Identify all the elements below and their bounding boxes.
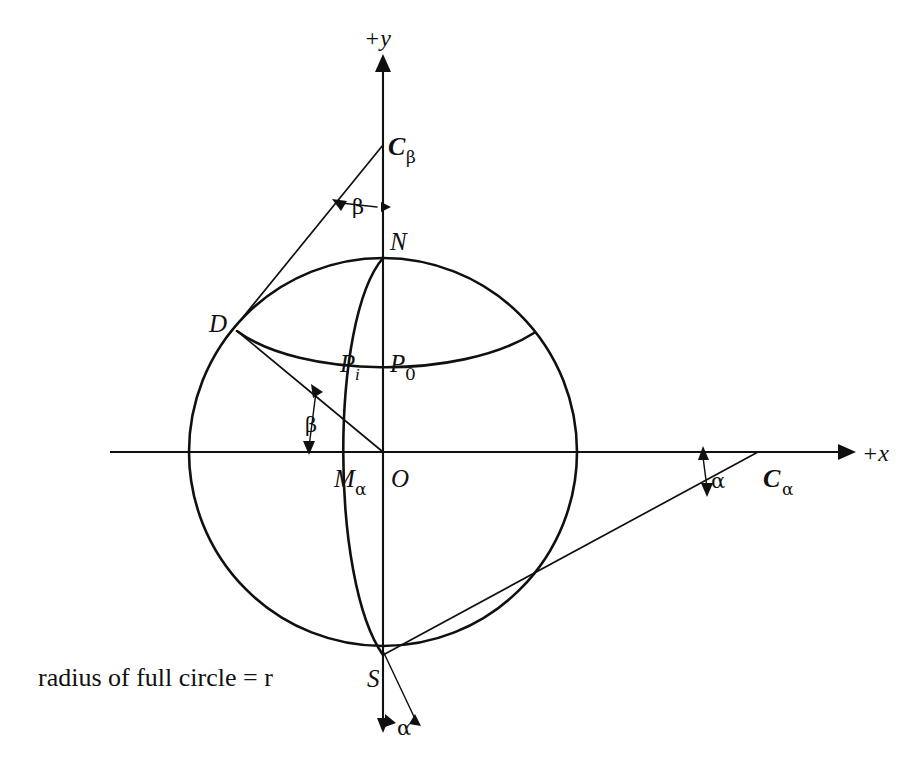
- label-point-p-zero-sub: 0: [405, 364, 416, 384]
- figure-caption: radius of full circle = r: [38, 663, 273, 692]
- label-center-alpha-main: C: [763, 464, 781, 493]
- y-axis-label: +y: [364, 25, 391, 51]
- label-angle-alpha-calpha: α: [711, 469, 725, 493]
- line-s-alpha-ray: [383, 651, 417, 723]
- label-point-d: D: [208, 310, 227, 337]
- label-angle-alpha-s: α: [397, 716, 411, 740]
- axis-group: [110, 54, 856, 733]
- label-angle-beta-origin: β: [305, 413, 317, 437]
- y-axis-arrowhead: [375, 54, 391, 72]
- label-center-beta-main: C: [388, 132, 406, 161]
- x-axis-label: +x: [862, 440, 889, 466]
- label-point-p-i-main: P: [339, 350, 355, 377]
- label-origin: O: [391, 465, 409, 492]
- label-center-beta-sub: β: [406, 147, 416, 167]
- label-center-beta: C β: [388, 132, 416, 167]
- label-point-p-zero: P 0: [389, 350, 416, 384]
- label-point-m-alpha: M α: [333, 465, 367, 499]
- label-point-p-zero-main: P: [389, 350, 405, 377]
- line-s-to-calpha: [383, 452, 758, 655]
- label-south-pole: S: [367, 665, 380, 692]
- label-center-alpha: C α: [763, 464, 794, 499]
- alpha-s-arrow-left: [385, 714, 396, 727]
- latitude-arc-beta: [237, 331, 534, 367]
- x-axis-arrowhead: [838, 444, 856, 460]
- alpha-angle-marker-s: [385, 714, 396, 727]
- label-point-p-i: P i: [339, 350, 360, 384]
- geometry-figure: +y +x C β N D P i P 0 M α O C: [0, 0, 911, 769]
- beta-origin-arrow-up: [311, 384, 323, 398]
- beta-cbeta-arrow-right: [381, 202, 391, 212]
- figure-canvas: +y +x C β N D P i P 0 M α O C: [0, 0, 911, 769]
- meridian-arc-alpha: [343, 258, 383, 655]
- label-point-p-i-sub: i: [355, 365, 360, 384]
- label-point-m-alpha-main: M: [333, 465, 356, 492]
- label-angle-beta-cbeta: β: [352, 195, 364, 219]
- label-point-m-alpha-sub: α: [355, 479, 367, 499]
- label-center-alpha-sub: α: [782, 479, 794, 499]
- label-north-pole: N: [389, 228, 408, 255]
